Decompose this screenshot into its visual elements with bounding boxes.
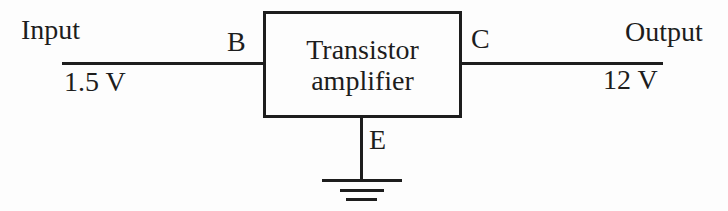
amplifier-block: Transistor amplifier <box>263 11 462 118</box>
emitter-wire <box>360 118 363 181</box>
ground-bar-top <box>322 179 402 182</box>
transistor-amplifier-diagram: Input 1.5 V B Transistor amplifier C Out… <box>0 0 728 211</box>
terminal-c-label: C <box>471 25 490 53</box>
amplifier-block-line1: Transistor <box>306 34 419 65</box>
terminal-e-label: E <box>369 126 386 154</box>
input-wire <box>62 62 264 65</box>
amplifier-block-line2: amplifier <box>311 65 414 96</box>
input-label: Input <box>21 16 80 44</box>
ground-bar-bottom <box>346 198 377 201</box>
ground-bar-middle <box>340 189 384 192</box>
terminal-b-label: B <box>227 28 246 56</box>
output-label: Output <box>625 18 703 46</box>
input-voltage-label: 1.5 V <box>64 68 126 96</box>
output-voltage-label: 12 V <box>603 66 658 94</box>
